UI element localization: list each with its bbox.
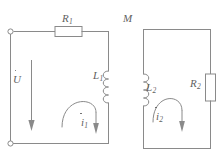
label-current-i2: i2 [156,111,163,124]
label-resistor-R1: R1 [62,13,73,26]
label-source-voltage-U: U [13,74,21,85]
resistor-R1-body [55,27,82,37]
label-current-i1-subscript: 1 [84,121,88,130]
label-inductor-L1-subscript: 1 [99,74,103,83]
label-inductor-L2: L2 [146,82,156,95]
loop-arrow-secondary-head [179,121,185,132]
phasor-dot-i1 [80,113,82,115]
label-current-i1: i1 [81,117,88,130]
label-resistor-R1-subscript: 1 [69,17,73,26]
label-mutual-inductance-symbol: M [123,12,132,24]
label-source-voltage-symbol: U [13,73,21,85]
resistor-R2-body [206,74,216,101]
label-source-voltage-phasor: U [13,74,21,85]
label-resistor-R2-symbol: R [190,77,197,89]
loop-arrow-primary-arc [62,101,96,127]
label-inductor-L1: L1 [93,70,103,83]
label-current-i1-phasor: i [81,117,84,128]
phasor-dot-i2 [155,107,157,109]
label-current-i2-phasor: i [156,111,159,122]
label-mutual-inductance-M: M [123,13,132,24]
terminal-bottom-left [8,141,13,146]
label-resistor-R1-symbol: R [62,12,69,24]
circuit-diagram: R1 R2 L1 L2 M U i1 i2 [0,0,223,163]
inductor-L1-coil [103,71,108,103]
label-resistor-R2: R2 [190,78,201,91]
label-resistor-R2-subscript: 2 [197,82,201,91]
label-current-i1-symbol: i [81,116,84,128]
loop-arrow-primary-head [93,123,99,134]
terminal-top-left [8,29,13,34]
label-current-i2-subscript: 2 [159,115,163,124]
voltage-arrow-U-head [28,120,34,131]
label-inductor-L2-subscript: 2 [152,86,156,95]
label-current-i2-symbol: i [156,110,159,122]
